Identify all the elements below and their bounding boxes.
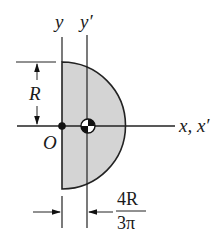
radius-arrow-up-icon — [34, 63, 40, 72]
offset-numerator: 4R — [117, 189, 138, 209]
y-axis-label: y — [53, 11, 64, 32]
offset-numerator-text: 4R — [117, 189, 138, 209]
x-axis-label: x, x′ — [178, 115, 210, 136]
radius-label: R — [28, 83, 41, 104]
centroid-marker-icon — [81, 119, 95, 133]
offset-denominator: 3π — [117, 213, 135, 233]
radius-arrow-down-icon — [34, 116, 40, 125]
offset-arrow-right-icon — [52, 209, 61, 214]
origin-label: O — [43, 132, 57, 153]
offset-arrow-left-icon — [88, 209, 97, 214]
origin-dot — [58, 122, 66, 130]
semicircle-centroid-diagram: y y′ x, x′ O R 4R 3π — [0, 0, 224, 235]
offset-denominator-text: 3π — [117, 213, 135, 233]
y-prime-axis-label: y′ — [78, 11, 93, 32]
